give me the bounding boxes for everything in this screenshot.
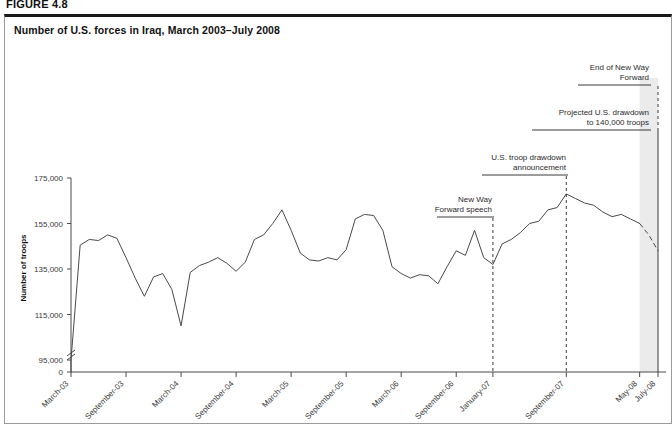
chart-plot-area: 095,000115,000135,000155,000175,000Numbe…	[0, 0, 672, 426]
y-tick-label: 175,000	[34, 174, 63, 183]
annotation-label-end-of-new-way-forward: End of New Way	[590, 63, 649, 72]
annotation-label-us-troop-drawdown-announcement: announcement	[513, 163, 567, 172]
y-tick-label: 115,000	[35, 311, 64, 320]
troop-level-line	[71, 194, 640, 372]
x-tick-label: September-04	[193, 379, 236, 422]
annotation-label-projected-us-drawdown: to 140,000 troops	[587, 118, 649, 127]
annotation-label-new-way-forward-speech: Forward speech	[435, 205, 492, 214]
annotation-label-end-of-new-way-forward: Forward	[620, 73, 649, 82]
y-tick-label: 135,000	[34, 265, 63, 274]
y-tick-label: 155,000	[34, 220, 63, 229]
y-tick-label: 0	[59, 368, 64, 377]
x-tick-label: January-07	[458, 379, 493, 414]
x-tick-label: September-03	[83, 379, 126, 422]
annotation-label-projected-us-drawdown: Projected U.S. drawdown	[559, 108, 649, 117]
x-tick-label: March-06	[370, 379, 401, 410]
y-tick-label: 95,000	[39, 356, 64, 365]
x-tick-label: March-05	[260, 379, 291, 410]
x-tick-label: March-03	[40, 379, 71, 410]
y-axis-title: Number of troops	[19, 234, 28, 302]
x-tick-label: September-06	[413, 379, 456, 422]
x-tick-label: July-08	[633, 379, 658, 404]
x-tick-label: March-04	[150, 379, 181, 410]
x-tick-label: September-05	[303, 379, 346, 422]
x-tick-label: September-07	[523, 379, 566, 422]
line-chart-svg: 095,000115,000135,000155,000175,000Numbe…	[0, 0, 672, 426]
annotation-label-new-way-forward-speech: New Way	[458, 195, 492, 204]
annotation-label-us-troop-drawdown-announcement: U.S. troop drawdown	[491, 153, 566, 162]
